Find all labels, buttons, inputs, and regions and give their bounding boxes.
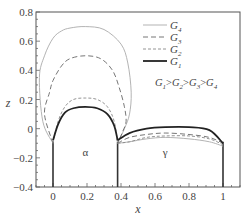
y-tick-label: −0.4	[13, 181, 33, 193]
x-tick-label: 0	[50, 190, 56, 202]
y-tick-label: 0.6	[19, 35, 33, 47]
y-tick-label: 0.8	[19, 6, 33, 18]
chart-container: −0.4−0.200.20.40.60.800.20.40.60.81xzαγG…	[0, 0, 243, 215]
y-tick-label: 0.4	[19, 64, 33, 76]
ordering-annotation: G1>G2>G3>G4	[155, 77, 218, 91]
y-axis-label: z	[5, 96, 11, 110]
y-tick-label: 0.2	[19, 94, 33, 106]
curve-g4-alpha	[39, 27, 131, 144]
x-tick-label: 0.2	[80, 190, 94, 202]
y-tick-label: −0.2	[13, 152, 33, 164]
x-axis-label: x	[134, 202, 141, 215]
curve-g1-alpha	[53, 107, 118, 141]
x-tick-label: 1	[220, 190, 226, 202]
x-tick-label: 0.6	[148, 190, 162, 202]
alpha-region-label: α	[82, 146, 88, 158]
curve-g2-alpha	[53, 98, 118, 143]
y-tick-label: 0	[28, 123, 34, 135]
gamma-region-label: γ	[162, 146, 168, 158]
x-tick-label: 0.8	[182, 190, 196, 202]
line-chart: −0.4−0.200.20.40.60.800.20.40.60.81xzαγG…	[0, 0, 243, 215]
x-tick-label: 0.4	[114, 190, 128, 202]
plot-frame	[36, 12, 240, 187]
